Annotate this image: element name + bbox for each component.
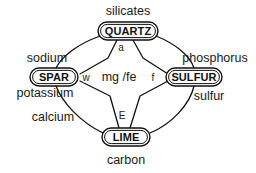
node-sulfur-label: SULFUR bbox=[171, 71, 216, 83]
diagram-container: QUARTZ SPAR SULFUR LIME a w f E mg /fe bbox=[0, 0, 256, 173]
label-calcium: calcium bbox=[32, 110, 74, 124]
edge-inner-sulfur-lime bbox=[130, 81, 168, 128]
edge-inner-quartz-sulfur bbox=[133, 40, 168, 74]
label-sodium: sodium bbox=[27, 51, 67, 65]
edge-outer-sulfur-lime bbox=[150, 86, 194, 133]
edge-inner-quartz-spar bbox=[80, 40, 117, 74]
label-sulfur-lower: sulfur bbox=[194, 89, 225, 103]
label-phosphorus: phosphorus bbox=[182, 51, 247, 65]
node-quartz[interactable]: QUARTZ bbox=[98, 22, 158, 40]
label-silicates: silicates bbox=[106, 4, 150, 18]
node-lime[interactable]: LIME bbox=[102, 128, 150, 146]
edge-label-f: f bbox=[152, 72, 155, 83]
edge-label-w: w bbox=[81, 72, 90, 83]
node-quartz-label: QUARTZ bbox=[105, 25, 152, 37]
edge-label-e: E bbox=[119, 110, 126, 121]
node-spar[interactable]: SPAR bbox=[30, 68, 78, 86]
edge-inner-spar-lime bbox=[80, 81, 119, 128]
label-potassium: potassium bbox=[17, 86, 74, 100]
node-spar-label: SPAR bbox=[39, 71, 69, 83]
node-lime-label: LIME bbox=[113, 131, 140, 143]
label-carbon: carbon bbox=[107, 153, 145, 167]
node-sulfur[interactable]: SULFUR bbox=[166, 68, 222, 86]
edge-label-a: a bbox=[118, 42, 124, 53]
center-label-mg-fe: mg /fe bbox=[102, 70, 137, 84]
diagram-canvas: QUARTZ SPAR SULFUR LIME a w f E mg /fe bbox=[0, 0, 256, 173]
